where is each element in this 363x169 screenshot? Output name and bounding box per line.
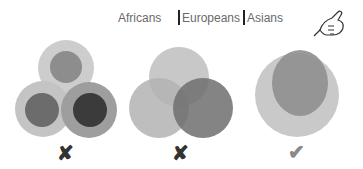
- panel-overlapping-groups: [129, 47, 233, 138]
- asians-inner-circle: [73, 93, 107, 127]
- europeans-asians-circle: [272, 50, 328, 116]
- pointing-hand-icon: [314, 11, 343, 36]
- asians-circle: [173, 78, 233, 138]
- panel-nested-groups: [255, 50, 339, 137]
- wrong-mark-icon: ✘: [172, 143, 189, 163]
- check-mark-icon: ✔: [288, 142, 305, 162]
- africans-inner-circle: [50, 51, 82, 83]
- panel-separate-groups: [15, 40, 117, 138]
- europeans-inner-circle: [25, 93, 59, 127]
- wrong-mark-icon: ✘: [57, 143, 74, 163]
